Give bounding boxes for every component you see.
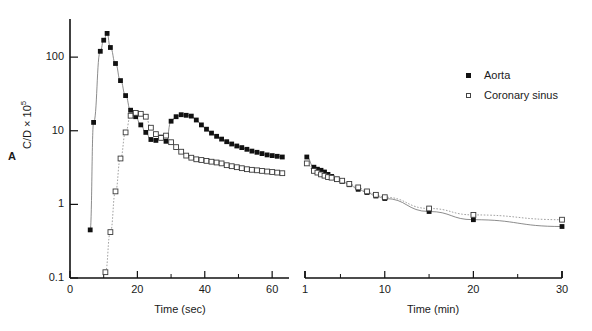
data-point-aorta <box>234 144 239 149</box>
data-point-coronary-sinus <box>347 182 352 187</box>
data-point-coronary-sinus <box>143 114 148 119</box>
data-point-aorta <box>149 137 154 142</box>
data-point-aorta <box>245 147 250 152</box>
data-point-coronary-sinus <box>340 178 345 183</box>
data-point-coronary-sinus <box>184 153 189 158</box>
data-point-aorta <box>118 78 123 83</box>
open-square-icon <box>466 93 471 98</box>
series-line-coronary-sinus <box>307 163 562 219</box>
data-point-coronary-sinus <box>275 170 280 175</box>
x-tick-label: 30 <box>542 283 582 295</box>
data-point-aorta <box>98 49 103 54</box>
data-point-coronary-sinus <box>154 132 159 137</box>
data-point-aorta <box>123 93 128 98</box>
data-point-coronary-sinus <box>245 167 250 172</box>
data-point-coronary-sinus <box>174 145 179 150</box>
data-point-aorta <box>113 61 118 66</box>
data-point-coronary-sinus <box>304 161 309 166</box>
data-point-coronary-sinus <box>128 113 133 118</box>
legend-label: Coronary sinus <box>484 89 558 101</box>
data-point-coronary-sinus <box>199 158 204 163</box>
data-point-coronary-sinus <box>194 157 199 162</box>
data-point-coronary-sinus <box>149 125 154 130</box>
data-point-aorta <box>214 134 219 139</box>
x-tick-label: 1 <box>285 283 325 295</box>
data-point-coronary-sinus <box>179 149 184 154</box>
data-point-coronary-sinus <box>169 140 174 145</box>
data-point-coronary-sinus <box>189 155 194 160</box>
y-tick-label: 10 <box>24 124 64 136</box>
data-point-coronary-sinus <box>374 192 379 197</box>
figure-panel-a: A C/D × 105 Time (sec) Time (min) 0.1110… <box>0 0 592 331</box>
data-point-coronary-sinus <box>365 189 370 194</box>
data-point-coronary-sinus <box>229 164 234 169</box>
data-point-aorta <box>265 153 270 158</box>
filled-square-icon <box>466 73 471 78</box>
data-point-aorta <box>184 113 189 118</box>
data-point-coronary-sinus <box>280 171 285 176</box>
data-point-aorta <box>250 149 255 154</box>
x-tick-label: 10 <box>365 283 405 295</box>
series-line-aorta <box>90 33 282 230</box>
data-point-aorta <box>204 127 209 132</box>
data-point-aorta <box>199 123 204 128</box>
x-axis-title-left: Time (sec) <box>120 303 240 315</box>
data-point-coronary-sinus <box>356 185 361 190</box>
data-point-aorta <box>194 118 199 123</box>
data-point-aorta <box>189 114 194 119</box>
data-point-aorta <box>91 120 96 125</box>
data-point-coronary-sinus <box>265 169 270 174</box>
data-point-coronary-sinus <box>234 165 239 170</box>
data-point-coronary-sinus <box>427 206 432 211</box>
data-point-aorta <box>101 38 106 43</box>
data-point-coronary-sinus <box>209 159 214 164</box>
data-point-aorta <box>169 119 174 124</box>
series-line-coronary-sinus <box>105 113 282 272</box>
data-point-aorta <box>138 123 143 128</box>
data-point-coronary-sinus <box>382 195 387 200</box>
data-point-aorta <box>239 145 244 150</box>
data-point-coronary-sinus <box>219 161 224 166</box>
x-tick-label: 20 <box>117 283 157 295</box>
data-point-coronary-sinus <box>260 169 265 174</box>
y-tick-label: 1 <box>24 197 64 209</box>
x-tick-label: 40 <box>185 283 225 295</box>
y-tick-label: 0.1 <box>24 271 64 283</box>
data-point-coronary-sinus <box>204 159 209 164</box>
data-point-aorta <box>105 31 110 36</box>
data-point-coronary-sinus <box>224 163 229 168</box>
data-point-aorta <box>154 138 159 143</box>
data-point-aorta <box>224 139 229 144</box>
data-point-coronary-sinus <box>103 270 108 275</box>
data-point-aorta <box>304 155 309 160</box>
data-point-coronary-sinus <box>123 130 128 135</box>
data-point-aorta <box>270 153 275 158</box>
data-point-coronary-sinus <box>270 170 275 175</box>
data-point-coronary-sinus <box>214 160 219 165</box>
data-point-aorta <box>255 150 260 155</box>
data-point-aorta <box>174 114 179 119</box>
data-point-aorta <box>88 228 93 233</box>
data-point-coronary-sinus <box>133 111 138 116</box>
data-point-coronary-sinus <box>108 230 113 235</box>
data-point-aorta <box>179 112 184 117</box>
x-tick-label: 0 <box>50 283 90 295</box>
y-tick-label: 100 <box>24 50 64 62</box>
data-point-aorta <box>164 139 169 144</box>
x-tick-label: 20 <box>453 283 493 295</box>
data-point-coronary-sinus <box>329 175 334 180</box>
plot-area <box>0 0 592 331</box>
series-line-aorta <box>307 157 562 227</box>
data-point-coronary-sinus <box>471 213 476 218</box>
data-point-aorta <box>219 137 224 142</box>
legend-label: Aorta <box>484 69 510 81</box>
data-point-coronary-sinus <box>159 136 164 141</box>
data-point-aorta <box>209 131 214 136</box>
data-point-coronary-sinus <box>118 156 123 161</box>
data-point-coronary-sinus <box>164 133 169 138</box>
data-point-aorta <box>471 217 476 222</box>
data-point-aorta <box>275 154 280 159</box>
data-point-aorta <box>108 45 113 50</box>
data-point-coronary-sinus <box>255 168 260 173</box>
data-point-coronary-sinus <box>138 111 143 116</box>
